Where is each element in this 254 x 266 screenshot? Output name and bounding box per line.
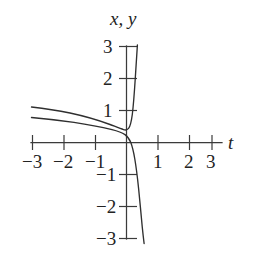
x-tick-label--2: −2	[53, 152, 73, 171]
graph-figure: x, y t −3 −2 −1 1 2 3 3 2 1 −1 −2 −3	[0, 0, 254, 266]
y-axis-title: x, y	[110, 9, 136, 28]
curve-lower-branch	[32, 118, 145, 244]
y-tick-label--2: −2	[96, 197, 116, 216]
x-axis-title: t	[228, 133, 233, 152]
x-tick-label-2: 2	[184, 152, 194, 171]
y-tick-label--1: −1	[96, 165, 116, 184]
x-tick-label-3: 3	[206, 152, 216, 171]
plot-canvas	[0, 0, 254, 266]
x-tick-label-1: 1	[153, 152, 163, 171]
x-tick-label--3: −3	[22, 152, 42, 171]
y-tick-label-3: 3	[103, 37, 113, 56]
y-tick-label-1: 1	[103, 101, 113, 120]
y-tick-label--3: −3	[96, 229, 116, 248]
y-tick-label-2: 2	[103, 69, 113, 88]
curve-upper-branch	[32, 45, 138, 130]
